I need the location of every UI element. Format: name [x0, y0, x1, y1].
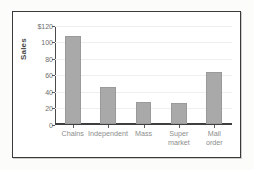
x-axis-tick-mark — [214, 125, 215, 128]
y-axis-tick-mark — [52, 42, 55, 43]
y-axis-tick-mark — [52, 92, 55, 93]
x-axis-tick-label: Mail order — [190, 130, 239, 147]
bar — [100, 87, 116, 124]
y-axis-tick-label: $120 — [37, 23, 53, 30]
y-axis-tick-mark — [52, 75, 55, 76]
y-axis-tick-mark — [52, 108, 55, 109]
bar — [136, 102, 152, 124]
chart-page: Sales 020406080100$120 ChainsIndependent… — [0, 0, 254, 170]
gridline — [55, 59, 232, 60]
y-axis-tick-mark — [52, 59, 55, 60]
bar — [171, 103, 187, 124]
bar — [65, 36, 81, 124]
y-axis-tick-mark — [52, 125, 55, 126]
x-axis-tick-mark — [179, 125, 180, 128]
x-axis-tick-mark — [144, 125, 145, 128]
chart-frame: Sales 020406080100$120 ChainsIndependent… — [12, 11, 241, 158]
x-axis-tick-mark — [108, 125, 109, 128]
bar — [206, 72, 222, 124]
gridline — [55, 26, 232, 27]
y-axis-tick-mark — [52, 26, 55, 27]
plot-area — [55, 26, 232, 125]
gridline — [55, 42, 232, 43]
chart-plot-wrapper: Sales 020406080100$120 ChainsIndependent… — [13, 12, 240, 157]
x-axis-tick-mark — [73, 125, 74, 128]
